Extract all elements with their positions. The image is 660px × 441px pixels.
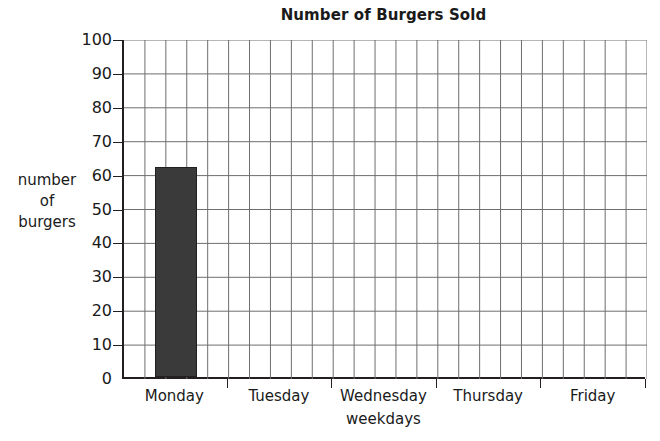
y-axis-tick-mark	[113, 311, 122, 312]
plot-area	[122, 40, 645, 379]
y-axis-tick-label: 50	[52, 202, 112, 218]
y-axis-tick-label: 80	[52, 100, 112, 116]
x-axis-tick-label: Friday	[570, 386, 615, 406]
y-axis-tick-label: 100	[52, 32, 112, 48]
y-axis-tick-mark	[113, 345, 122, 346]
y-axis-tick-mark	[113, 176, 122, 177]
y-axis-tick-label: 10	[52, 337, 112, 353]
x-axis-tick-label: Thursday	[453, 386, 523, 406]
y-axis-tick-labels: 0102030405060708090100	[46, 0, 112, 441]
chart-title: Number of Burgers Sold	[122, 6, 645, 24]
y-axis-tick-mark	[113, 142, 122, 143]
x-axis-tick-label: Wednesday	[340, 386, 427, 406]
x-axis-tick-mark	[645, 379, 646, 388]
y-axis-tick-label: 40	[52, 235, 112, 251]
y-axis-tick-label: 60	[52, 168, 112, 184]
y-axis-tick-mark	[113, 277, 122, 278]
y-axis-tick-mark	[113, 74, 122, 75]
bar-chart: Number of Burgers Sold number of burgers…	[0, 0, 660, 441]
x-axis-title: weekdays	[122, 410, 645, 428]
y-axis-tick-label: 90	[52, 66, 112, 82]
x-axis-tick-label: Tuesday	[248, 386, 309, 406]
x-axis-tick-label: Monday	[145, 386, 204, 406]
bar	[155, 167, 197, 377]
y-axis-tick-label: 20	[52, 303, 112, 319]
y-axis-tick-mark	[113, 40, 122, 41]
x-axis-tick-labels: MondayTuesdayWednesdayThursdayFriday	[122, 386, 645, 412]
y-axis-tick-label: 0	[52, 371, 112, 387]
y-axis-tick-mark	[113, 243, 122, 244]
grid-lines	[124, 40, 647, 379]
y-axis-tick-mark	[113, 108, 122, 109]
y-axis-tick-label: 70	[52, 134, 112, 150]
y-axis-tick-mark	[113, 210, 122, 211]
y-axis-tick-label: 30	[52, 269, 112, 285]
